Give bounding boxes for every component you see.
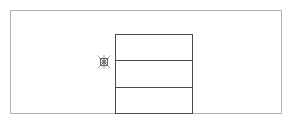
section-divider-1 xyxy=(116,60,192,61)
stacked-rectangle-shape[interactable] xyxy=(115,34,193,114)
diagram-canvas[interactable] xyxy=(10,10,282,114)
section-divider-2 xyxy=(116,87,192,88)
anchor-crosshair-icon[interactable] xyxy=(97,55,111,69)
